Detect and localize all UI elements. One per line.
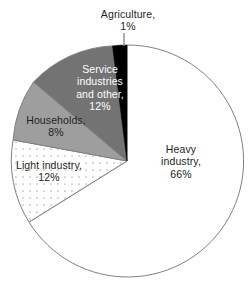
pie-label-light-industry: Light industry, 12% <box>2 159 96 184</box>
pie-label-agriculture: Agriculture, 1% <box>78 8 178 33</box>
pie-label-heavy-industry: Heavy industry, 66% <box>148 143 214 180</box>
pie-label-households: Households, 8% <box>17 114 95 139</box>
pie-chart: Agriculture, 1% Heavy industry, 66% Serv… <box>0 0 251 296</box>
pie-label-service-industries: Service industries and other, 12% <box>62 63 138 113</box>
